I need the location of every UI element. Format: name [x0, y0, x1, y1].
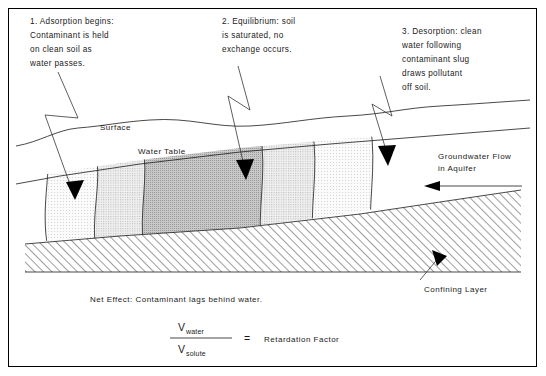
confining-layer-label: Confining Layer — [424, 285, 488, 294]
water-table-label: Water Table — [138, 147, 186, 156]
callout-2-line-2: is saturated, no — [222, 31, 284, 40]
formula-equals-sign: = — [244, 332, 251, 344]
callout-1-line-4: water passes. — [29, 59, 85, 68]
figure-canvas: Surface Water Table Groundwater Flow in … — [0, 0, 546, 376]
formula-denominator-sub: solute — [186, 350, 206, 357]
callout-3-line-3: contaminant slug — [402, 55, 470, 64]
formula-result-label: Retardation Factor — [264, 335, 339, 344]
retardation-formula: V water V solute = Retardation Factor — [170, 321, 339, 357]
callout-2-line-1: 2. Equilibrium: soil — [222, 17, 295, 26]
callout-2: 2. Equilibrium: soil is saturated, no ex… — [222, 17, 295, 54]
callout-1-line-3: on clean soil as — [30, 45, 92, 54]
groundwater-flow-label-line2: in Aquifer — [438, 164, 476, 173]
formula-numerator-base: V — [178, 321, 185, 333]
callout-1: 1. Adsorption begins: Contaminant is hel… — [29, 17, 114, 68]
callout-2-line-3: exchange occurs. — [222, 45, 292, 54]
callout-3-line-2: water following — [401, 41, 462, 50]
concentration-band-2 — [94, 142, 145, 250]
callout-1-line-2: Contaminant is held — [30, 31, 109, 40]
concentration-band-1 — [45, 146, 98, 250]
callout-1-line-1: 1. Adsorption begins: — [30, 17, 114, 26]
formula-numerator-sub: water — [185, 328, 205, 335]
groundwater-diagram: Surface Water Table Groundwater Flow in … — [0, 0, 546, 376]
surface-label: Surface — [100, 123, 131, 132]
callout-3-line-5: off soil. — [402, 83, 431, 92]
callout-3-line-1: 3. Desorption: clean — [402, 27, 482, 36]
groundwater-flow-label-line1: Groundwater Flow — [438, 152, 511, 161]
net-effect-text: Net Effect: Contaminant lags behind wate… — [90, 295, 263, 304]
callout-3-line-4: draws pollutant — [402, 69, 463, 78]
callout-3: 3. Desorption: clean water following con… — [401, 27, 482, 92]
formula-denominator-base: V — [178, 343, 185, 355]
